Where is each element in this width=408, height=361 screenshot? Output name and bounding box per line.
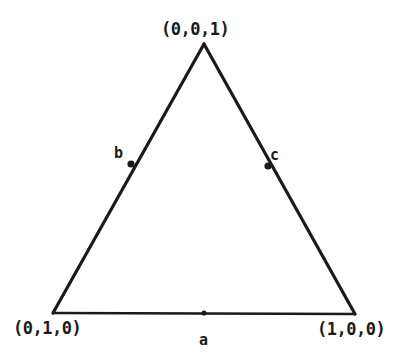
vertex-label-bottom-right: (1,0,0) [317, 321, 385, 338]
point-label-c: c [270, 148, 279, 163]
vertex-label-top: (0,0,1) [161, 21, 229, 38]
simplex-triangle-drawing [0, 0, 408, 361]
triangle-edge-left [53, 44, 204, 313]
figure-canvas: (0,0,1) (0,1,0) (1,0,0) a b c [0, 0, 408, 361]
vertex-label-bottom-left: (0,1,0) [13, 320, 81, 337]
point-label-a: a [199, 333, 208, 348]
point-label-b: b [114, 146, 123, 161]
point-marker-a [201, 310, 206, 315]
edge-point-markers [127, 160, 271, 315]
triangle-edges [53, 44, 355, 314]
point-marker-b [127, 160, 134, 167]
triangle-edge-right [204, 44, 355, 314]
